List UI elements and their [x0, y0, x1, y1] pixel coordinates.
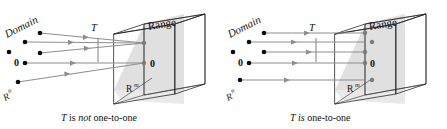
domain-zero-label-right: 0 — [238, 57, 243, 68]
svg-text:Domain: Domain — [2, 13, 40, 40]
svg-text:0: 0 — [370, 58, 375, 69]
svg-text:T: T — [91, 22, 98, 33]
domain-points-left — [7, 31, 43, 85]
svg-text:0: 0 — [14, 57, 19, 68]
domain-space-label-left: R n — [0, 87, 15, 104]
svg-text:R: R — [347, 84, 354, 94]
diagram-one-to-one: Range R m T Domain R n — [224, 0, 447, 129]
domain-label-left: Domain — [2, 13, 40, 40]
domain-points-right — [231, 31, 267, 83]
svg-text:T: T — [309, 22, 316, 33]
svg-text:0: 0 — [238, 57, 243, 68]
diagram-not-one-to-one: Range R m T Domain R n — [0, 0, 224, 129]
caption-right-rest: one-to-one — [305, 112, 351, 123]
figure-root: Range R m T Domain R n — [0, 0, 447, 129]
caption-left-not: not — [78, 112, 91, 123]
svg-text:m: m — [134, 81, 139, 88]
caption-left-is: is — [67, 112, 79, 123]
svg-text:0: 0 — [150, 58, 155, 69]
svg-text:m: m — [355, 81, 360, 88]
caption-right: T is one-to-one — [290, 112, 351, 123]
caption-left: T is not one-to-one — [61, 112, 137, 123]
domain-label-right: Domain — [225, 13, 263, 40]
domain-zero-label-left: 0 — [14, 57, 19, 68]
range-zero-label-right: 0 — [370, 58, 375, 69]
svg-text:Domain: Domain — [225, 13, 263, 40]
svg-text:T is not one-to-one: T is not one-to-one — [61, 112, 137, 123]
domain-space-label-right: R n — [224, 87, 238, 104]
svg-text:R: R — [126, 84, 133, 94]
range-zero-label-left: 0 — [150, 58, 155, 69]
caption-left-rest: one-to-one — [91, 112, 137, 123]
svg-text:T is one-to-one: T is one-to-one — [290, 112, 351, 123]
